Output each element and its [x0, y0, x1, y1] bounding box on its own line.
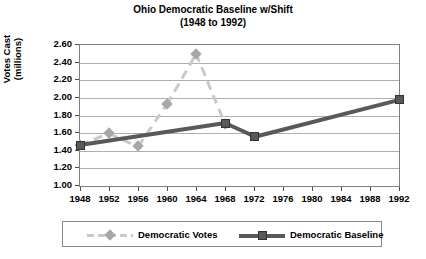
y-axis-tick-label: 2.60: [28, 39, 72, 49]
data-point-democratic-baseline: [76, 141, 85, 150]
x-axis-tick-mark: [138, 187, 139, 191]
x-axis-tick-mark: [254, 187, 255, 191]
legend-label-democratic-baseline: Democratic Baseline: [290, 230, 383, 240]
gridline: [80, 63, 399, 64]
x-axis-tick-mark: [225, 187, 226, 191]
legend-entry-democratic-votes: Democratic Votes: [87, 228, 218, 242]
gridline: [80, 116, 399, 117]
y-axis-title-line2: (millions): [12, 0, 23, 129]
x-axis-tick-mark: [283, 187, 284, 191]
y-axis-tick-label: 1.60: [28, 127, 72, 137]
series-segment-democratic-votes: [137, 103, 168, 147]
legend-entry-democratic-baseline: Democratic Baseline: [239, 228, 383, 242]
gridline: [80, 80, 399, 81]
gridline: [80, 133, 399, 134]
gridline: [80, 151, 399, 152]
y-axis-title-line1: Votes Cast: [1, 0, 12, 129]
plot-area: [79, 44, 400, 187]
chart-title-line2: (1948 to 1992): [0, 17, 426, 30]
x-axis-tick-mark: [341, 187, 342, 191]
series-segment-democratic-votes: [195, 53, 227, 125]
data-point-democratic-baseline: [395, 95, 404, 104]
x-axis-tick-mark: [80, 187, 81, 191]
y-axis-tick-label: 2.40: [28, 57, 72, 67]
data-point-democratic-baseline: [250, 132, 259, 141]
data-point-democratic-baseline: [221, 119, 230, 128]
dashed-line-diamond-marker-icon: [87, 230, 133, 240]
legend-label-democratic-votes: Democratic Votes: [138, 230, 218, 240]
solid-line-square-marker-icon: [239, 230, 285, 240]
y-axis-tick-label: 2.20: [28, 74, 72, 84]
x-axis-tick-mark: [399, 187, 400, 191]
y-axis-tick-label: 1.20: [28, 162, 72, 172]
gridline: [80, 98, 399, 99]
gridline: [80, 168, 399, 169]
x-axis-tick-mark: [167, 187, 168, 191]
chart-legend: Democratic Votes Democratic Baseline: [62, 221, 382, 247]
chart-title: Ohio Democratic Baseline w/Shift (1948 t…: [0, 4, 426, 29]
chart-container: Ohio Democratic Baseline w/Shift (1948 t…: [0, 0, 426, 259]
y-axis-tick-label: 1.80: [28, 110, 72, 120]
y-axis-title: Votes Cast (millions): [1, 0, 23, 129]
y-axis-tick-label: 1.00: [28, 180, 72, 190]
x-axis-tick-mark: [196, 187, 197, 191]
x-axis-tick-label: 1992: [379, 194, 419, 204]
x-axis-tick-mark: [109, 187, 110, 191]
y-axis-tick-label: 2.00: [28, 92, 72, 102]
chart-title-line1: Ohio Democratic Baseline w/Shift: [0, 4, 426, 17]
x-axis-tick-mark: [312, 187, 313, 191]
y-axis-tick-label: 1.40: [28, 145, 72, 155]
x-axis-tick-mark: [370, 187, 371, 191]
